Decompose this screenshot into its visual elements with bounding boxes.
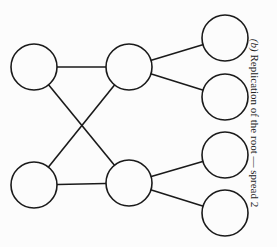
caption-label: (b) bbox=[249, 39, 261, 52]
node-R3 bbox=[202, 132, 248, 178]
node-R4 bbox=[202, 190, 248, 236]
caption-text: Replication of the root — spread 2 bbox=[249, 54, 261, 207]
node-R2 bbox=[202, 74, 248, 120]
node-R1 bbox=[202, 15, 248, 61]
node-M1 bbox=[106, 44, 152, 90]
figure-caption: (b) Replication of the root — spread 2 bbox=[249, 39, 261, 207]
nodes bbox=[11, 15, 248, 236]
node-L2 bbox=[11, 162, 57, 208]
node-L1 bbox=[11, 44, 57, 90]
tree-diagram bbox=[0, 0, 277, 247]
node-M2 bbox=[106, 160, 152, 206]
